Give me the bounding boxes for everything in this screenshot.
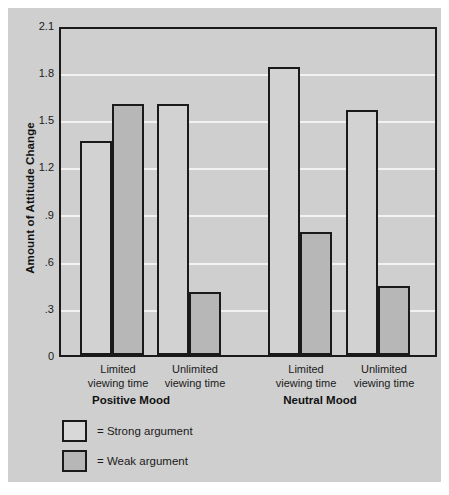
legend-label-strong: = Strong argument bbox=[97, 425, 193, 437]
x-category-line1: Unlimited bbox=[150, 362, 240, 376]
x-group-label-positive-mood: Positive Mood bbox=[71, 394, 191, 406]
x-category-line2: viewing time bbox=[261, 376, 351, 390]
x-category-line2: viewing time bbox=[339, 376, 429, 390]
x-category-line1: Limited bbox=[261, 362, 351, 376]
y-tick-label: 0 bbox=[14, 351, 54, 362]
legend-swatch-weak-icon bbox=[62, 450, 87, 472]
bar-neutral-limited-weak bbox=[300, 232, 332, 355]
y-tick-label: .3 bbox=[14, 304, 54, 315]
y-axis-title: Amount of Attitude Change bbox=[24, 108, 36, 288]
legend-item-strong-argument: = Strong argument bbox=[62, 418, 193, 444]
plot-area bbox=[59, 27, 437, 357]
bar-neutral-unlimited-strong bbox=[346, 110, 378, 355]
x-category-line1: Unlimited bbox=[339, 362, 429, 376]
x-category-label-2: Limited viewing time bbox=[261, 362, 351, 390]
legend-swatch-strong-icon bbox=[62, 420, 87, 442]
bar-neutral-limited-strong bbox=[268, 67, 300, 355]
bar-positive-unlimited-weak bbox=[189, 292, 221, 355]
legend-item-weak-argument: = Weak argument bbox=[62, 448, 193, 474]
x-category-line2: viewing time bbox=[150, 376, 240, 390]
legend-label-weak: = Weak argument bbox=[97, 455, 188, 467]
y-tick-label: 2.1 bbox=[14, 21, 54, 32]
x-category-label-1: Unlimited viewing time bbox=[150, 362, 240, 390]
bar-neutral-unlimited-weak bbox=[378, 286, 410, 355]
bar-positive-unlimited-strong bbox=[157, 104, 189, 355]
y-tick-label: 1.8 bbox=[14, 68, 54, 79]
chart-legend: = Strong argument = Weak argument bbox=[62, 418, 193, 478]
gridline bbox=[61, 74, 435, 76]
bar-positive-limited-weak bbox=[112, 104, 144, 355]
x-group-label-neutral-mood: Neutral Mood bbox=[260, 394, 380, 406]
x-category-label-3: Unlimited viewing time bbox=[339, 362, 429, 390]
chart-figure: 2.1 1.8 1.5 1.2 .9 .6 .3 0 Amount of Att… bbox=[0, 0, 449, 495]
bar-positive-limited-strong bbox=[80, 141, 112, 355]
